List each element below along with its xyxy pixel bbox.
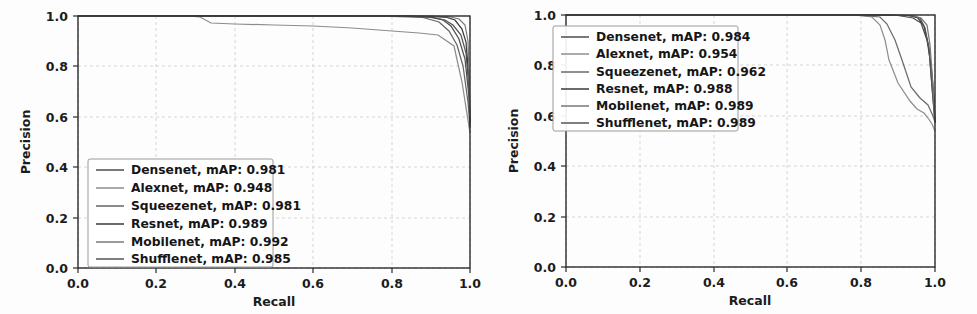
right-xtick-1: 0.2 bbox=[629, 275, 651, 290]
right-xaxis-label: Recall bbox=[729, 293, 772, 308]
right-yaxis-label: Precision bbox=[506, 109, 521, 174]
right-legend-label-1: Alexnet, mAP: 0.954 bbox=[596, 47, 737, 61]
left-legend-label-5: Shufflenet, mAP: 0.985 bbox=[131, 252, 291, 266]
left-yaxis-label: Precision bbox=[18, 110, 33, 175]
right-xtick-4: 0.8 bbox=[850, 275, 872, 290]
left-ytick-0: 0.0 bbox=[46, 261, 68, 276]
right-xtick-5: 1.0 bbox=[924, 275, 946, 290]
left-plot-svg: 0.0 0.2 0.4 0.6 0.8 1.0 0.0 0.2 0.4 0.6 … bbox=[0, 0, 489, 314]
left-ytick-5: 1.0 bbox=[46, 9, 68, 24]
left-xtick-5: 1.0 bbox=[459, 276, 481, 291]
left-ytick-2: 0.4 bbox=[46, 160, 68, 175]
left-curves bbox=[78, 16, 470, 133]
right-xtick-3: 0.6 bbox=[776, 275, 798, 290]
right-legend-label-2: Squeezenet, mAP: 0.962 bbox=[596, 65, 766, 79]
precision-recall-figure: 0.0 0.2 0.4 0.6 0.8 1.0 0.0 0.2 0.4 0.6 … bbox=[0, 0, 977, 314]
right-ytick-0: 0.0 bbox=[534, 260, 556, 275]
left-legend[interactable]: Densenet, mAP: 0.981 Alexnet, mAP: 0.948… bbox=[88, 159, 301, 267]
left-legend-label-0: Densenet, mAP: 0.981 bbox=[131, 163, 285, 177]
right-ytick-5: 1.0 bbox=[534, 8, 556, 23]
right-legend-label-0: Densenet, mAP: 0.984 bbox=[596, 30, 750, 44]
right-plot-panel: 0.0 0.2 0.4 0.6 0.8 1.0 0.0 0.2 0.4 0.6 … bbox=[489, 0, 977, 314]
curve-mobilenet bbox=[78, 16, 470, 117]
right-legend-label-4: Mobilenet, mAP: 0.989 bbox=[596, 99, 754, 113]
right-legend[interactable]: Densenet, mAP: 0.984 Alexnet, mAP: 0.954… bbox=[553, 26, 766, 131]
left-legend-label-2: Squeezenet, mAP: 0.981 bbox=[131, 199, 301, 213]
right-xtick-2: 0.4 bbox=[703, 275, 725, 290]
left-xaxis-label: Recall bbox=[253, 294, 296, 309]
right-xtick-0: 0.0 bbox=[555, 275, 577, 290]
right-ytick-2: 0.4 bbox=[534, 159, 556, 174]
left-xtick-3: 0.6 bbox=[302, 276, 324, 291]
left-plot-panel: 0.0 0.2 0.4 0.6 0.8 1.0 0.0 0.2 0.4 0.6 … bbox=[0, 0, 489, 314]
left-ytick-4: 0.8 bbox=[46, 59, 68, 74]
curve-alexnet bbox=[78, 16, 470, 133]
right-legend-label-5: Shufflenet, mAP: 0.989 bbox=[596, 116, 756, 130]
left-xtick-0: 0.0 bbox=[67, 276, 89, 291]
left-ytick-1: 0.2 bbox=[46, 211, 68, 226]
left-xtick-4: 0.8 bbox=[381, 276, 403, 291]
right-ytick-1: 0.2 bbox=[534, 210, 556, 225]
left-ytick-3: 0.6 bbox=[46, 110, 68, 125]
right-legend-label-3: Resnet, mAP: 0.988 bbox=[596, 82, 733, 96]
left-legend-label-1: Alexnet, mAP: 0.948 bbox=[131, 181, 272, 195]
left-legend-label-3: Resnet, mAP: 0.989 bbox=[131, 217, 268, 231]
right-plot-svg: 0.0 0.2 0.4 0.6 0.8 1.0 0.0 0.2 0.4 0.6 … bbox=[489, 0, 977, 314]
left-xtick-2: 0.4 bbox=[224, 276, 246, 291]
left-xtick-1: 0.2 bbox=[145, 276, 167, 291]
left-legend-label-4: Mobilenet, mAP: 0.992 bbox=[131, 235, 289, 249]
